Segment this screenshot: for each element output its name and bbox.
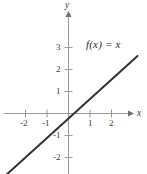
y-tick-label-pos2: 2 <box>56 65 61 74</box>
x-tick-label-pos1: 1 <box>88 119 93 128</box>
function-equation-label: f(x) = x <box>86 39 121 50</box>
x-tick-label-neg1: -1 <box>42 119 50 128</box>
plot-area <box>0 0 147 174</box>
y-tick-label-neg1: -1 <box>53 131 61 140</box>
x-axis-label: x <box>137 109 141 119</box>
y-axis-arrow-icon <box>66 11 72 17</box>
y-tick-label-neg2: -2 <box>53 153 61 162</box>
y-axis-label: y <box>65 1 69 11</box>
x-tick-label-pos2: 2 <box>109 119 114 128</box>
function-curve-fx-equals-x <box>5 56 138 174</box>
x-axis-arrow-icon <box>128 111 134 117</box>
x-tick-label-neg2: -2 <box>20 119 28 128</box>
function-graph-figure: y x -2 -1 1 2 3 2 1 -1 -2 f(x) = x <box>0 0 147 174</box>
y-tick-label-pos3: 3 <box>56 43 61 52</box>
y-tick-label-pos1: 1 <box>56 87 61 96</box>
